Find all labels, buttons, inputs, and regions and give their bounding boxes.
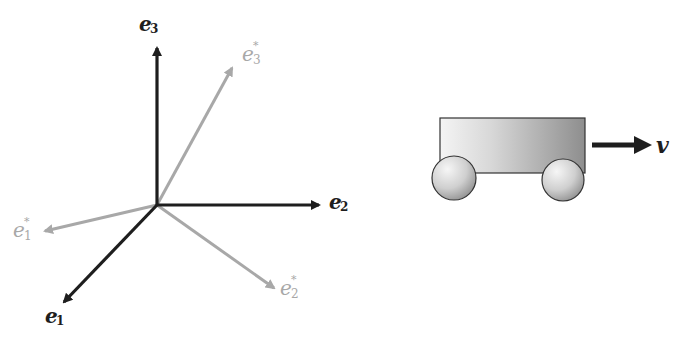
e1-star-arrow [45, 205, 157, 231]
e3-star-arrow [157, 68, 232, 205]
cart-wheel-right [542, 159, 584, 201]
e1-arrow [64, 205, 157, 302]
label-velocity: v [656, 134, 669, 156]
velocity-arrow [592, 136, 652, 154]
cart [432, 118, 585, 201]
label-e3: e3 [139, 14, 152, 34]
e2-star-arrow [157, 205, 274, 288]
dual-basis-vectors [45, 68, 274, 288]
diagram-canvas [0, 0, 690, 339]
label-e2: e2 [329, 192, 342, 212]
label-e1: e1 [45, 306, 58, 326]
label-e1-star: e*1 [13, 220, 25, 240]
basis-vectors [64, 48, 319, 302]
label-e2-star: e*2 [280, 278, 292, 298]
cart-wheel-left [432, 156, 476, 200]
label-e3-star: e*3 [242, 44, 254, 64]
